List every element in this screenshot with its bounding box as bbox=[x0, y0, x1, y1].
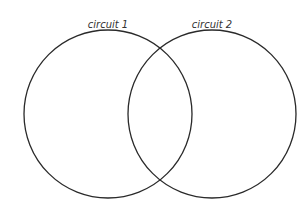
set-label-circuit-1: circuit 1 bbox=[88, 19, 128, 30]
set-label-circuit-2: circuit 2 bbox=[192, 19, 232, 30]
set-circle-circuit-1 bbox=[24, 30, 192, 198]
venn-diagram: circuit 1 circuit 2 bbox=[0, 0, 308, 211]
set-circle-circuit-2 bbox=[128, 30, 296, 198]
